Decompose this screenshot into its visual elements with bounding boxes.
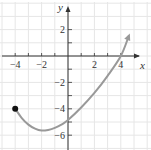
grid-lines <box>0 2 151 150</box>
x-axis-label: x <box>139 59 145 71</box>
svg-text:2: 2 <box>60 24 65 35</box>
function-curve <box>15 36 129 130</box>
closed-endpoint-dot <box>12 106 18 112</box>
svg-text:−2: −2 <box>54 77 65 88</box>
svg-text:2: 2 <box>92 59 97 70</box>
function-graph: −4−2242−2−4−6 x y <box>0 0 151 150</box>
svg-text:−2: −2 <box>36 59 47 70</box>
svg-text:−6: −6 <box>54 130 65 141</box>
svg-text:−4: −4 <box>54 103 65 114</box>
y-axis-label: y <box>57 1 63 13</box>
svg-text:−4: −4 <box>10 59 21 70</box>
axes <box>2 6 140 150</box>
